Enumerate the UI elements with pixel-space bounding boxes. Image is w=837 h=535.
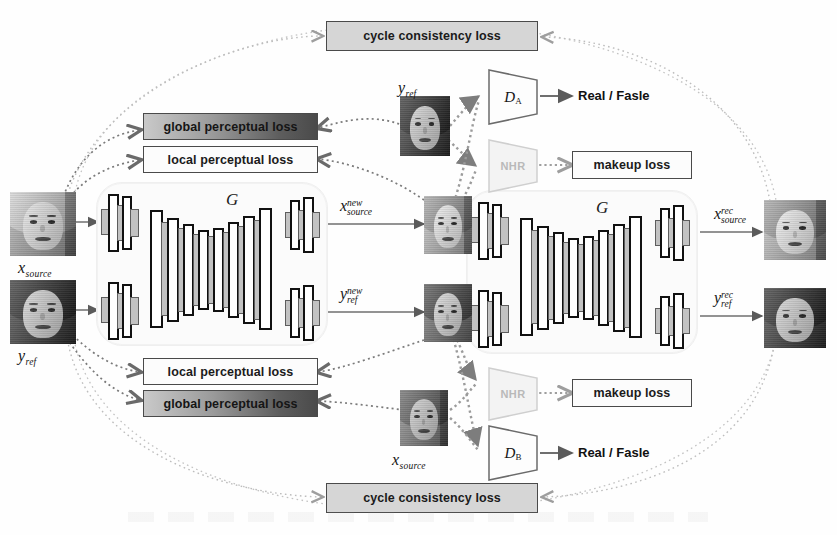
conv-slab [130, 297, 139, 325]
label-y-ref-new: ynewref [340, 286, 362, 305]
input-image-x-source [10, 192, 76, 256]
discriminator-b: DB [487, 424, 539, 482]
cycle-consistency-loss-top: cycle consistency loss [326, 21, 538, 51]
label-x-source-new: xnewsource [340, 198, 372, 217]
reference-image-y-ref-top [400, 96, 450, 156]
label-y-ref-top: yref [398, 80, 416, 96]
discriminator-a-output: Real / Fasle [578, 88, 650, 103]
label-x-source-rec: xrecsource [714, 206, 746, 225]
reconstructed-image-x-source-rec [764, 200, 826, 260]
generated-image-y-ref-new [424, 284, 472, 342]
figure-canvas: cycle consistency loss global perceptual… [0, 0, 837, 535]
cycle-consistency-loss-bottom: cycle consistency loss [326, 483, 538, 513]
nhr-module-top: NHR [487, 138, 539, 194]
conv-slab [682, 220, 690, 246]
global-perceptual-loss-bottom: global perceptual loss [143, 390, 318, 417]
input-image-y-ref [10, 280, 76, 344]
label-y-ref: yref [18, 348, 36, 364]
conv-slab [259, 208, 272, 330]
label-x-source-bottom: xsource [392, 452, 425, 468]
makeup-loss-bottom: makeup loss [572, 379, 692, 407]
discriminator-b-label: DB [487, 424, 539, 482]
discriminator-a: DA [487, 68, 539, 126]
conv-slab [500, 305, 509, 333]
makeup-loss-top: makeup loss [572, 151, 692, 179]
generated-image-x-source-new [424, 196, 472, 254]
local-perceptual-loss-top: local perceptual loss [143, 146, 318, 173]
global-perceptual-loss-top: global perceptual loss [143, 113, 318, 140]
conv-slab [629, 216, 642, 338]
discriminator-b-output: Real / Fasle [578, 445, 650, 460]
scan-artifact [128, 512, 708, 522]
conv-slab [130, 209, 139, 237]
conv-slab [312, 300, 320, 326]
generator-right-label: G [596, 198, 608, 218]
label-y-ref-rec: yrecref [714, 290, 733, 309]
nhr-module-bottom: NHR [487, 366, 539, 422]
label-x-source: xsource [18, 260, 51, 276]
conv-slab [500, 217, 509, 245]
local-perceptual-loss-bottom: local perceptual loss [143, 358, 318, 385]
nhr-module-top-label: NHR [487, 138, 539, 194]
nhr-module-bottom-label: NHR [487, 366, 539, 422]
reconstructed-image-y-ref-rec [764, 288, 826, 348]
generator-left-label: G [226, 190, 238, 210]
conv-slab [682, 308, 690, 334]
conv-slab [312, 212, 320, 238]
discriminator-a-label: DA [487, 68, 539, 126]
input-image-x-source-bottom [400, 390, 448, 446]
